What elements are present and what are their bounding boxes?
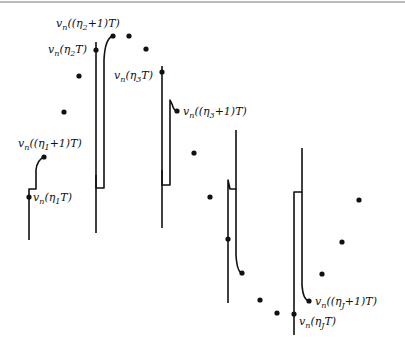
sample-dots [26,33,361,316]
sample-dot [225,236,230,241]
label-eta1p1T: vn((η1+1)T) [18,137,82,152]
sample-dot [207,194,212,199]
sample-dot [143,46,148,51]
sample-dot [319,271,324,276]
sample-dot [257,297,262,302]
sample-dot [356,197,361,202]
sample-dot [110,33,115,38]
sample-dot [61,109,66,114]
label-eta1T: vn(η1T) [33,191,72,206]
label-etaJT: vn(ηJT) [299,315,336,330]
sample-dot [339,239,344,244]
sample-dot [126,33,131,38]
sample-dot [239,270,244,275]
sample-dot [76,73,81,78]
label-eta3T: vn(η3T) [114,69,153,84]
label-eta2p1T: vn((η2+1)T) [56,17,120,32]
sampled-waveform-figure: vn(η1T)vn((η1+1)T)vn(η2T)vn((η2+1)T)vn(η… [0,0,405,353]
sample-dot [93,47,98,52]
label-eta3p1T: vn((η3+1)T) [183,105,247,120]
sample-dot [306,298,311,303]
spike-2 [96,36,113,233]
sample-dot [26,194,31,199]
label-eta2T: vn(η2T) [48,43,87,58]
sample-dot [274,310,279,315]
sample-dot [191,150,196,155]
sample-dot [174,108,179,113]
spike-4 [228,130,242,303]
label-etaJp1T: vn((ηJ+1)T) [315,295,377,310]
sample-dot [159,69,164,74]
sample-labels: vn(η1T)vn((η1+1)T)vn(η2T)vn((η2+1)T)vn(η… [18,17,377,330]
spike-J [294,148,309,335]
sample-dot [291,311,296,316]
spike-3 [162,66,177,228]
sample-dot [41,154,46,159]
